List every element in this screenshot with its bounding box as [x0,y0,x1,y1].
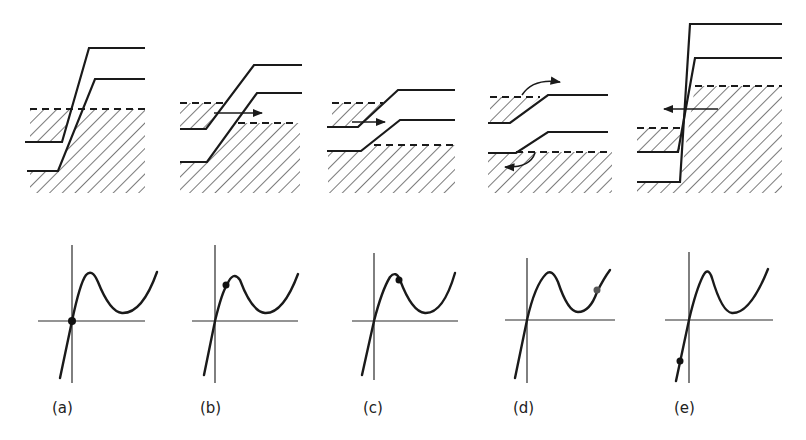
panel-label: (c) [363,399,383,417]
iv-curve-a: (a) [38,245,157,417]
electron-injection-arrow-icon [522,81,560,95]
valence-band-edge [488,132,608,153]
band-diagram-c [327,90,455,193]
band-diagram-d [488,81,612,193]
operating-point-marker [223,282,230,289]
tunnel-diode-figure: (a) (b) (c) (d) (e) [0,0,806,440]
band-diagram-e [637,24,782,193]
panel-label: (d) [513,399,534,417]
iv-curve-b: (b) [192,245,298,417]
panel-label: (a) [52,399,73,417]
iv-curve-d: (d) [505,258,615,417]
operating-point-marker [396,277,403,284]
filled-states-n-side [332,103,383,127]
panel-label: (b) [200,399,221,417]
filled-states-p-side [488,152,612,193]
operating-point-marker [594,287,601,294]
iv-characteristic [362,273,455,375]
band-diagram-a [25,48,145,193]
iv-curve-e: (e) [665,252,773,417]
filled-states-p-side [180,123,300,193]
iv-characteristic [60,272,157,378]
filled-states-p-side [328,145,455,193]
operating-point-marker [677,358,684,365]
iv-characteristic [676,269,768,381]
operating-point-marker [68,317,76,325]
iv-characteristic [204,274,298,375]
band-diagram-b [180,65,302,193]
filled-states-n-side [637,128,680,152]
iv-characteristic [515,270,610,378]
iv-curve-c: (c) [352,253,458,417]
panel-label: (e) [674,399,695,417]
